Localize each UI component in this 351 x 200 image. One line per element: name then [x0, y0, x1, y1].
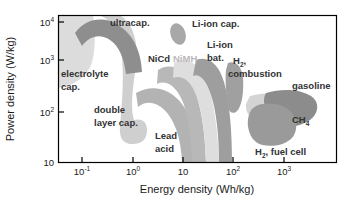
x-tick-labels: 10-1 100 10 102 103	[74, 165, 292, 177]
label-h2-fuel-cell-rest: , fuel cell	[266, 146, 307, 157]
label-nicd: NiCd	[148, 53, 170, 64]
y-tick-exp-2: 2	[50, 106, 54, 113]
label-ch4-sub: 4	[306, 120, 310, 127]
x-tick-label-1: 10	[126, 166, 137, 177]
label-double-layer-cap-line1: double	[94, 104, 125, 115]
x-tick-label-3: 10	[226, 166, 237, 177]
svg-text:10: 10	[43, 157, 54, 168]
svg-text:103: 103	[40, 54, 55, 66]
label-li-ion-bat-line1: Li-ion	[207, 39, 233, 50]
x-tick-exp-1: 0	[136, 165, 140, 172]
ragone-plot-figure: 104 103 102 10 10-1 100 10 102	[0, 0, 351, 200]
label-gasoline: gasoline	[292, 80, 331, 91]
y-tick-label-0: 10	[40, 17, 51, 28]
y-tick-label-2: 10	[40, 107, 51, 118]
svg-text:102: 102	[226, 165, 241, 177]
svg-text:10: 10	[178, 166, 189, 177]
svg-text:10-1: 10-1	[74, 165, 91, 177]
label-ch4-main: CH	[292, 114, 306, 125]
label-li-ion-cap: Li-ion cap.	[192, 18, 240, 29]
x-tick-exp-3: 2	[236, 165, 240, 172]
x-tick-label-2: 10	[178, 166, 189, 177]
label-electrolyte-cap-line1: electrolyte	[61, 68, 109, 79]
y-axis-label: Power density (W/kg)	[4, 37, 16, 142]
x-tick-exp-0: -1	[84, 165, 90, 172]
x-tick-label-4: 10	[277, 166, 288, 177]
label-nimh: NiMH	[173, 53, 197, 64]
y-tick-label-1: 10	[40, 55, 51, 66]
x-tick-label-0: 10	[74, 166, 85, 177]
x-axis-label: Energy density (Wh/kg)	[140, 183, 254, 195]
label-h2-combustion-word: combustion	[228, 68, 282, 79]
label-lead-acid-line1: Lead	[155, 130, 177, 141]
chart-canvas: 104 103 102 10 10-1 100 10 102	[0, 0, 351, 200]
svg-text:104: 104	[40, 16, 55, 28]
label-h2-combustion-first: H2,	[233, 55, 246, 68]
y-tick-exp-0: 4	[50, 16, 54, 23]
svg-text:102: 102	[40, 106, 55, 118]
label-ultracap: ultracap.	[110, 17, 150, 28]
label-h2-combustion-comma: ,	[244, 55, 247, 66]
label-electrolyte-cap-line2: cap.	[61, 81, 80, 92]
x-tick-exp-4: 3	[287, 165, 291, 172]
svg-text:103: 103	[277, 165, 292, 177]
label-lead-acid-line2: acid	[155, 143, 174, 154]
y-tick-exp-1: 3	[50, 54, 54, 61]
svg-text:100: 100	[126, 165, 141, 177]
label-li-ion-bat-line2: bat.	[207, 52, 224, 63]
y-tick-labels: 104 103 102 10	[40, 16, 55, 168]
label-double-layer-cap-line2: layer cap.	[94, 117, 138, 128]
y-tick-label-3: 10	[43, 157, 54, 168]
